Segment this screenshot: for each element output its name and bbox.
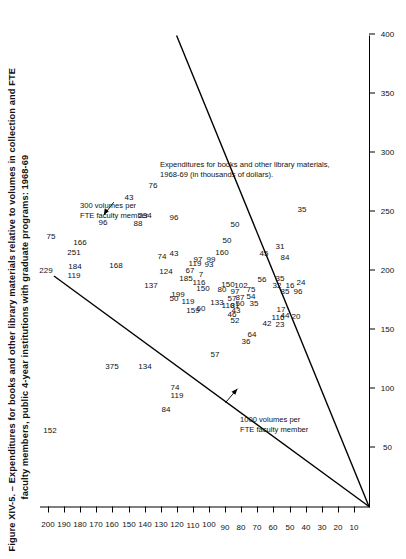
y-tick-label: 190	[57, 520, 70, 529]
data-point-label: 75	[47, 232, 56, 240]
x-tick	[369, 446, 375, 447]
data-point-label: 50	[222, 237, 231, 245]
x-tick	[369, 328, 375, 329]
data-point-label: 50	[230, 220, 239, 228]
data-point-label: 375	[106, 362, 119, 370]
y-tick-label: 70	[253, 522, 262, 531]
figure-stage: Figure XIV-5. – Expenditures for books a…	[0, 0, 406, 559]
data-point-label: 7	[199, 270, 203, 278]
data-point-label: 119	[170, 391, 183, 399]
x-tick-label: 200	[381, 266, 394, 275]
legend-note-line1: Expenditures for books and other library…	[160, 159, 330, 169]
y-tick-label: 160	[106, 520, 119, 529]
y-tick-label: 150	[122, 520, 135, 529]
data-point-label: 99	[206, 255, 215, 263]
y-tick-label: 30	[317, 522, 326, 531]
y-tick	[177, 506, 178, 512]
y-tick	[129, 506, 130, 512]
plot-area: 1000 volumes per FTE faculty member 300 …	[40, 35, 370, 507]
data-point-label: 185	[180, 274, 193, 282]
data-point-label: 152	[43, 426, 56, 434]
data-point-label: 43	[169, 249, 178, 257]
data-point-label: 96	[293, 287, 302, 295]
x-tick-label: 50	[383, 443, 392, 452]
y-tick	[322, 506, 323, 512]
data-point-label: 251	[67, 248, 80, 256]
y-tick	[96, 506, 97, 512]
data-point-label: 97	[193, 255, 202, 263]
data-point-label: 60	[197, 304, 206, 312]
x-tick-label: 100	[381, 384, 394, 393]
x-tick	[369, 210, 375, 211]
y-tick-label: 140	[138, 520, 151, 529]
x-tick-label: 150	[381, 325, 394, 334]
y-tick-label: 180	[74, 520, 87, 529]
y-tick-label: 130	[154, 520, 167, 529]
y-tick	[354, 506, 355, 512]
annotation-1000-volumes-line2: FTE faculty member	[240, 424, 308, 434]
y-tick	[225, 506, 226, 512]
y-tick-label: 200	[41, 520, 54, 529]
y-tick-label: 100	[202, 520, 215, 529]
x-tick	[369, 33, 375, 34]
annotation-1000-volumes-line1: 1000 volumes per	[240, 414, 308, 424]
figure-title: Figure XIV-5. – Expenditures for books a…	[6, 6, 32, 551]
y-tick-label: 60	[269, 522, 278, 531]
x-tick	[369, 269, 375, 270]
y-tick	[145, 506, 146, 512]
data-point-label: 56	[258, 275, 267, 283]
data-point-label: 64	[248, 330, 257, 338]
x-tick	[369, 92, 375, 93]
y-tick-label: 10	[349, 522, 358, 531]
y-tick-label: 50	[285, 522, 294, 531]
data-point-label: 52	[230, 316, 239, 324]
data-point-label: 168	[109, 261, 122, 269]
x-tick	[369, 151, 375, 152]
y-tick	[64, 506, 65, 512]
y-tick	[80, 506, 81, 512]
y-tick-label: 110	[187, 520, 200, 529]
data-point-label: 35	[298, 205, 307, 213]
figure-title-line1: Figure XIV-5. – Expenditures for books a…	[7, 67, 17, 551]
data-point-label: 88	[134, 219, 143, 227]
data-point-label: 184	[69, 262, 82, 270]
y-tick	[209, 506, 210, 512]
y-tick-label: 80	[237, 522, 246, 531]
data-point-label: 229	[40, 266, 53, 274]
y-tick	[273, 506, 274, 512]
y-tick	[306, 506, 307, 512]
y-tick	[161, 506, 162, 512]
data-point-label: 20	[291, 312, 300, 320]
x-tick-label: 350	[381, 89, 394, 98]
data-point-label: 54	[246, 292, 255, 300]
y-tick	[193, 506, 194, 512]
data-point-label: 74	[158, 252, 167, 260]
data-point-label: 43	[124, 193, 133, 201]
y-tick	[290, 506, 291, 512]
annotation-1000-volumes: 1000 volumes per FTE faculty member	[240, 414, 308, 433]
x-tick-label: 300	[381, 148, 394, 157]
x-tick-label: 400	[381, 30, 394, 39]
y-tick-label: 170	[90, 520, 103, 529]
data-point-label: 234	[138, 211, 151, 219]
y-tick-label: 120	[170, 520, 183, 529]
y-tick	[257, 506, 258, 512]
data-point-label: 24	[296, 278, 305, 286]
data-point-label: 84	[161, 405, 170, 413]
legend-note-line2: 1968-69 (in thousands of dollars).	[160, 169, 330, 179]
data-point-label: 45	[259, 249, 268, 257]
data-point-label: 74	[171, 383, 180, 391]
y-tick	[112, 506, 113, 512]
figure-title-line2: faculty members, public 4-year instituti…	[19, 6, 32, 551]
legend-note: Expenditures for books and other library…	[160, 159, 330, 178]
y-tick	[338, 506, 339, 512]
data-point-label: 96	[169, 213, 178, 221]
data-point-label: 17	[277, 305, 286, 313]
data-point-label: 119	[67, 271, 80, 279]
data-point-label: 97	[230, 287, 239, 295]
y-tick-label: 40	[301, 522, 310, 531]
y-tick-label: 90	[221, 522, 230, 531]
data-point-label: 31	[275, 242, 284, 250]
reference-lines	[40, 35, 369, 506]
data-point-label: 160	[215, 248, 228, 256]
